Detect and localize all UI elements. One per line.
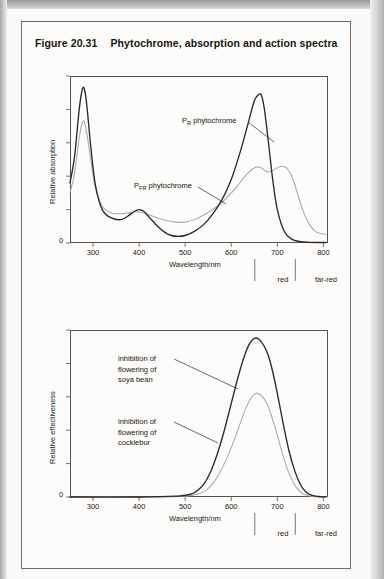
leader-line-pfr bbox=[198, 187, 226, 204]
leader-line-soya bbox=[174, 359, 238, 389]
chart-action-spectra: Relative effectiveness 0 Wavelength/nm 3… bbox=[22, 318, 350, 564]
chart-absorption-spectra: Relative absorption 0 Wavelength/nm 3004… bbox=[22, 64, 350, 312]
figure-title-text: Phytochrome, absorption and action spect… bbox=[110, 37, 337, 49]
curve-label-cocklebur: inhibition offlowering ofcocklebur bbox=[118, 417, 156, 449]
x-tick-label: 300 bbox=[77, 502, 109, 511]
x-axis-title-effectiveness: Wavelength/nm bbox=[169, 514, 221, 523]
curve-label-line: flowering of bbox=[118, 428, 156, 439]
figure-box: Figure 20.31Phytochrome, absorption and … bbox=[21, 21, 351, 569]
effectiveness-curves-svg bbox=[22, 318, 352, 564]
scan-edge-top bbox=[0, 0, 384, 9]
x-tick-label: 700 bbox=[261, 248, 293, 257]
curve-label-line: soya bean bbox=[118, 375, 156, 386]
curve-label-line: inhibition of bbox=[118, 417, 156, 428]
x-tick-label: 600 bbox=[215, 502, 247, 511]
band-label-red-absorption: red bbox=[270, 275, 296, 284]
curve-label-pr-phytochrome: PR phytochrome bbox=[182, 116, 237, 127]
leader-line-pr bbox=[248, 122, 274, 142]
x-tick-label: 700 bbox=[261, 502, 293, 511]
band-label-far-red-absorption: far-red bbox=[308, 275, 344, 284]
scan-edge-left bbox=[0, 0, 7, 579]
y-axis-title-effectiveness: Relative effectiveness bbox=[48, 391, 57, 464]
x-tick-label: 400 bbox=[123, 248, 155, 257]
page-sheet: Figure 20.31Phytochrome, absorption and … bbox=[7, 9, 370, 579]
x-tick-label: 400 bbox=[123, 502, 155, 511]
x-tick-label: 600 bbox=[215, 248, 247, 257]
band-label-red-effectiveness: red bbox=[270, 529, 296, 538]
curve-label-line: cocklebur bbox=[118, 438, 156, 449]
x-tick-label: 500 bbox=[169, 248, 201, 257]
curve-label-line: inhibition of bbox=[118, 354, 156, 365]
y-axis-zero-label-absorption: 0 bbox=[59, 236, 63, 245]
figure-caption: Figure 20.31Phytochrome, absorption and … bbox=[35, 37, 338, 49]
figure-number: Figure 20.31 bbox=[35, 37, 97, 49]
x-tick-label: 300 bbox=[77, 248, 109, 257]
leader-line-cocklebur bbox=[174, 422, 218, 443]
x-axis-title-absorption: Wavelength/nm bbox=[169, 260, 221, 269]
y-axis-title-absorption: Relative absorption bbox=[48, 140, 57, 204]
x-tick-label: 500 bbox=[169, 502, 201, 511]
y-axis-zero-label-effectiveness: 0 bbox=[59, 490, 63, 499]
curve-label-pfr-phytochrome: PFR phytochrome bbox=[134, 181, 192, 192]
curve-label-line: flowering of bbox=[118, 365, 156, 376]
scan-edge-right bbox=[370, 0, 384, 579]
band-label-far-red-effectiveness: far-red bbox=[308, 529, 344, 538]
x-tick-label: 800 bbox=[307, 502, 339, 511]
x-tick-label: 800 bbox=[307, 248, 339, 257]
curve-label-soya-bean: inhibition offlowering ofsoya bean bbox=[118, 354, 156, 386]
